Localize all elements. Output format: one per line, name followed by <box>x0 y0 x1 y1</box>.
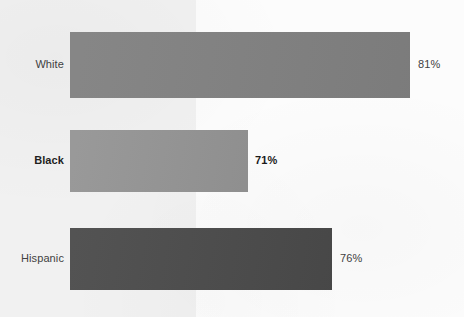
bar-black <box>70 130 248 192</box>
bar-chart-plot-area: White 81% Black 71% Hispanic 76% <box>0 0 464 317</box>
category-label-hispanic: Hispanic <box>0 252 64 264</box>
bar-hispanic <box>70 228 332 290</box>
bar-white <box>70 32 410 98</box>
category-label-white: White <box>0 58 64 70</box>
value-label-white: 81% <box>418 58 440 70</box>
value-label-black: 71% <box>255 154 277 166</box>
chart-canvas: White 81% Black 71% Hispanic 76% <box>0 0 464 317</box>
category-label-black: Black <box>0 154 64 166</box>
value-label-hispanic: 76% <box>340 252 362 264</box>
